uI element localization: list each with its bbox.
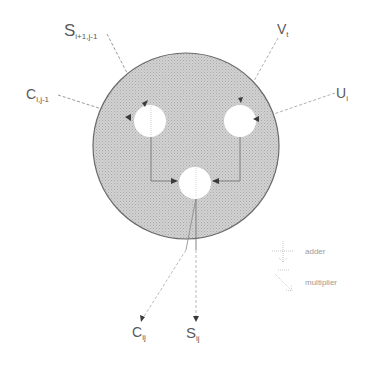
label-s-input-main: S — [64, 21, 75, 40]
label-s-output-main: S — [186, 324, 196, 341]
multiplier-symbol — [275, 270, 292, 291]
label-u-input-sub: i — [346, 94, 348, 103]
legend-multiplier-label: multiplier — [305, 278, 337, 287]
label-s-input-sub: i+1,j-1 — [75, 32, 97, 41]
processing-cell — [93, 53, 279, 239]
label-u-input: Ui — [336, 86, 348, 103]
legend-adder-label: adder — [305, 247, 325, 256]
label-u-input-main: U — [336, 85, 346, 101]
label-c-input: Ci,j-1 — [26, 87, 49, 104]
bottom-unit — [179, 167, 211, 199]
label-c-output-main: C — [132, 324, 142, 340]
wire-c-output — [143, 250, 186, 318]
label-c-output-sub: ij — [142, 333, 146, 342]
arrow-s-output — [193, 316, 199, 322]
label-c-input-main: C — [26, 86, 36, 102]
label-s-output: Sij — [186, 325, 200, 343]
label-v-input: Vt — [277, 22, 289, 39]
label-s-input: Si+1,j-1 — [64, 22, 97, 41]
adder-symbol — [272, 241, 294, 262]
label-s-output-sub: ij — [196, 334, 200, 343]
label-c-input-sub: i,j-1 — [36, 95, 49, 104]
left-unit — [134, 105, 166, 137]
label-v-input-main: V — [277, 21, 286, 37]
label-c-output: Cij — [132, 325, 146, 342]
label-v-input-sub: t — [286, 30, 288, 39]
arrow-c-output — [140, 315, 145, 322]
right-unit — [224, 105, 256, 137]
diagram-canvas — [0, 0, 372, 371]
